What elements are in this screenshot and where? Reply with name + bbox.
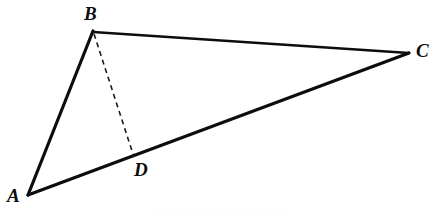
vertex-label-c: C (416, 41, 429, 60)
geometry-figure: A B C D (0, 0, 432, 220)
vertex-label-b: B (84, 4, 97, 23)
segment-bc (93, 32, 409, 53)
vertex-label-d: D (134, 160, 148, 179)
vertex-label-a: A (7, 186, 20, 205)
segment-bd-dashed (94, 34, 134, 157)
segment-ac (28, 53, 409, 195)
segment-ab (28, 31, 93, 195)
triangle-diagram-svg (0, 0, 432, 220)
